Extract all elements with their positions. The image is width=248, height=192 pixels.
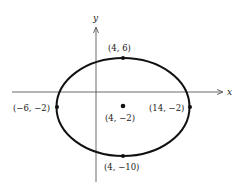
label-center: (4, −2) <box>105 113 135 123</box>
y-axis <box>94 27 99 182</box>
x-axis <box>12 90 223 95</box>
ellipse-diagram: x y (4, 6) (4, −10) (−6, −2) (14, −2) (4… <box>0 0 248 192</box>
label-left: (−6, −2) <box>13 103 50 113</box>
y-axis-label: y <box>92 13 99 23</box>
x-axis-label: x <box>227 87 232 97</box>
label-top: (4, 6) <box>108 43 131 53</box>
vertex-right-point <box>188 105 192 109</box>
label-bottom: (4, −10) <box>104 162 139 172</box>
vertex-top-point <box>121 56 125 60</box>
center-point <box>121 104 126 109</box>
vertex-left-point <box>55 105 59 109</box>
vertex-bottom-point <box>121 154 125 158</box>
label-right: (14, −2) <box>149 103 184 113</box>
